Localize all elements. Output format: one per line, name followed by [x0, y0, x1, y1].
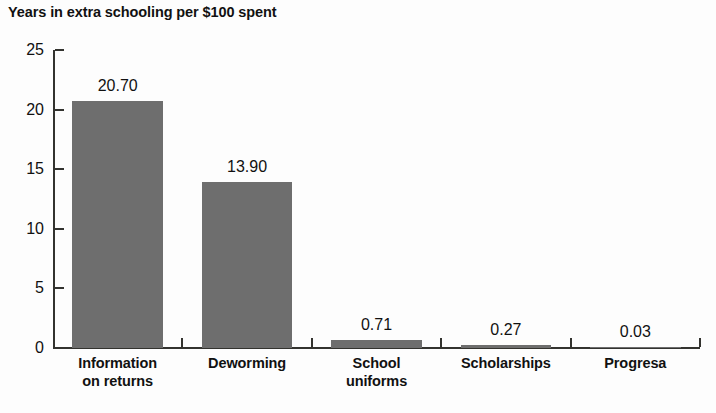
bar-value-label: 0.71 — [361, 316, 392, 334]
x-axis-category-label: Deworming — [208, 354, 286, 372]
x-axis-category-label: School uniforms — [346, 354, 407, 390]
x-axis-category-label: Progresa — [604, 354, 666, 372]
bar[interactable] — [72, 101, 163, 348]
bar-value-label: 20.70 — [98, 77, 138, 95]
bars-layer: 20.7013.900.710.270.03 — [0, 0, 716, 348]
bar-value-label: 0.03 — [620, 323, 651, 341]
bar[interactable] — [590, 347, 681, 348]
bar-value-label: 0.27 — [490, 321, 521, 339]
bar-chart-figure: Years in extra schooling per $100 spent … — [0, 0, 716, 413]
bar-value-label: 13.90 — [227, 158, 267, 176]
bar[interactable] — [202, 182, 293, 348]
bar[interactable] — [331, 340, 422, 348]
x-axis-category-label: Scholarships — [461, 354, 551, 372]
bar[interactable] — [461, 345, 552, 348]
x-axis-category-label: Information on returns — [78, 354, 157, 390]
